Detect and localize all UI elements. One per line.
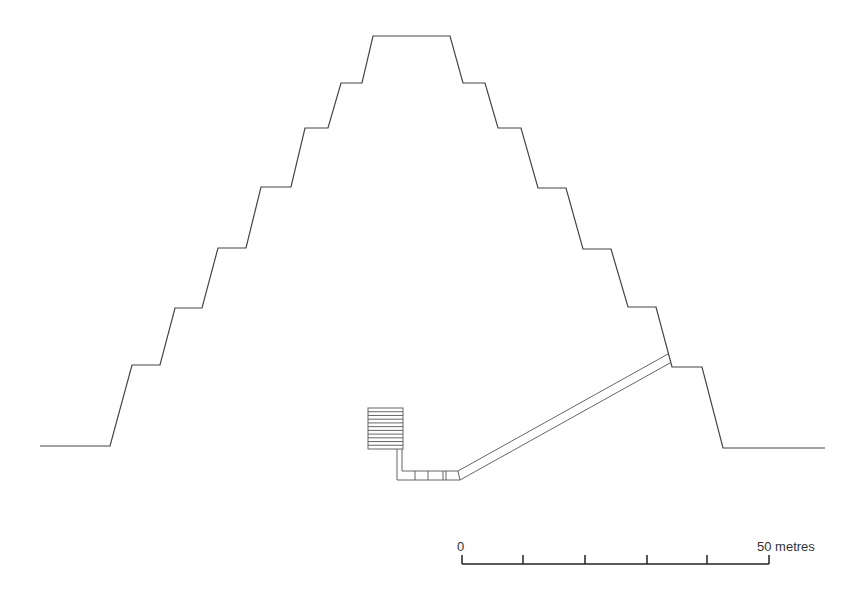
burial-chamber bbox=[368, 408, 460, 480]
scale-start-label: 0 bbox=[457, 540, 464, 553]
scale-bar bbox=[462, 555, 769, 564]
descending-corridor bbox=[458, 354, 670, 480]
pyramid-cross-section bbox=[0, 0, 860, 615]
corridor-end-line bbox=[458, 471, 460, 480]
scale-end-label: 50 metres bbox=[757, 540, 815, 553]
chamber-box bbox=[368, 408, 403, 449]
pyramid-outline bbox=[40, 36, 825, 448]
corridor-lower-line bbox=[460, 363, 670, 480]
chamber-hatching bbox=[368, 412, 403, 446]
corridor-upper-line bbox=[458, 354, 668, 471]
